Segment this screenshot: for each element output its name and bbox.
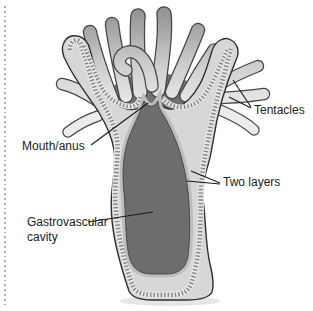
label-mouth-anus: Mouth/anus [22,140,85,153]
label-tentacles: Tentacles [254,104,305,117]
figure-canvas: Tentacles Mouth/anus Two layers Gastrova… [0,0,313,311]
label-gastrovascular-cavity: Gastrovascular cavity [27,215,123,244]
polyp-diagram [0,0,313,311]
label-two-layers: Two layers [223,176,280,189]
